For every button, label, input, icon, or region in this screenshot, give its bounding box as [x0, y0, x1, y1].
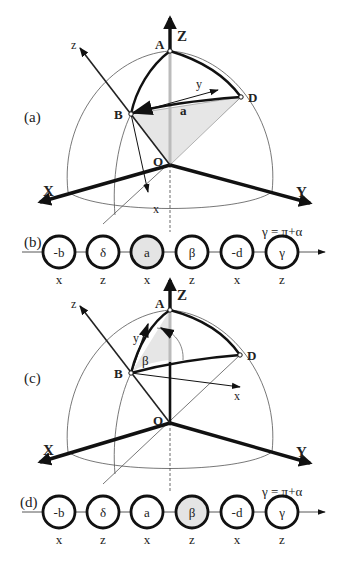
panel-b: (b) γ = π+α -bxδzaxβz-dxγz	[22, 224, 325, 287]
point-A	[168, 308, 172, 312]
rotation-axis-label: x	[144, 532, 151, 547]
Z-label: Z	[177, 28, 187, 44]
Y-axis-arrow	[170, 423, 310, 463]
Y-label: Y	[296, 444, 307, 460]
rotation-axis-label: z	[189, 532, 195, 547]
rotation-node-value: -b	[54, 505, 65, 520]
point-B-label: B	[114, 366, 123, 381]
local-z-label: z	[71, 297, 76, 311]
rotation-node-value: -d	[232, 505, 243, 520]
point-O-label: O	[153, 413, 163, 428]
Y-axis-arrow	[170, 165, 310, 203]
panel-label: (b)	[24, 234, 42, 251]
rotation-node-value: δ	[100, 245, 106, 260]
X-label: X	[43, 183, 54, 199]
point-B-label: B	[114, 107, 123, 122]
rotation-axis-label: x	[234, 532, 241, 547]
rotation-node-value: -b	[54, 245, 65, 260]
point-A-label: A	[155, 296, 165, 311]
local-y-label: y	[196, 77, 202, 91]
X-label: X	[43, 442, 54, 458]
panel-label: (a)	[24, 109, 41, 126]
local-x-label: x	[234, 389, 240, 403]
arc-AD	[170, 310, 240, 355]
point-B	[129, 371, 133, 375]
point-A	[168, 49, 172, 53]
arc-AD	[170, 51, 241, 97]
rotation-axis-label: z	[279, 532, 285, 547]
diagonal-line	[103, 355, 240, 484]
panel-a: (a) A B D O Z X Y z y x a	[24, 18, 310, 232]
point-O-label: O	[153, 154, 163, 169]
Z-label: Z	[177, 287, 187, 303]
rotation-node-value: γ	[278, 245, 285, 260]
Y-label: Y	[296, 184, 307, 200]
local-y-label: y	[133, 331, 139, 345]
rotation-node-value: β	[189, 245, 196, 260]
rotation-node-value: β	[189, 505, 196, 520]
panel-d: (d) γ = π+α -bxδzaxβz-dxγz	[20, 484, 325, 547]
panel-c: (c) A B D O Z X Y z y x β	[24, 280, 310, 492]
panel-label: (d)	[20, 494, 38, 511]
point-D	[239, 95, 243, 99]
rotation-axis-label: x	[56, 532, 63, 547]
point-D-label: D	[247, 348, 256, 363]
rotation-node-value: -d	[232, 245, 243, 260]
figure: (a) A B D O Z X Y z y x a (b) γ = π+α -b…	[0, 0, 347, 567]
point-D-label: D	[248, 90, 257, 105]
rotation-axis-label: z	[100, 272, 106, 287]
X-axis-arrow	[40, 423, 170, 462]
rotation-axis-label: x	[234, 272, 241, 287]
rotation-axis-label: z	[189, 272, 195, 287]
angle-label: a	[180, 103, 187, 118]
local-x-axis	[131, 373, 240, 387]
rotation-axis-label: x	[144, 272, 151, 287]
local-x-label: x	[153, 202, 159, 216]
panel-label: (c)	[24, 370, 41, 387]
meridian-arc	[114, 114, 131, 215]
local-z-label: z	[71, 38, 76, 52]
meridian-arc	[114, 373, 131, 474]
X-axis-arrow	[40, 165, 170, 202]
rotation-axis-label: z	[100, 532, 106, 547]
rotation-axis-label: z	[279, 272, 285, 287]
point-D	[238, 353, 242, 357]
point-A-label: A	[155, 37, 165, 52]
rotation-node-value: a	[144, 245, 150, 260]
angle-label: β	[142, 353, 149, 368]
rotation-axis-label: x	[56, 272, 63, 287]
rotation-node-value: a	[144, 505, 150, 520]
rotation-node-value: γ	[278, 505, 285, 520]
point-B	[129, 112, 133, 116]
rotation-node-value: δ	[100, 505, 106, 520]
